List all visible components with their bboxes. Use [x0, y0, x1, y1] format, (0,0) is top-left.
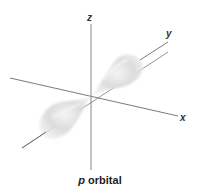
y-axis-label: y — [165, 28, 172, 39]
orbital-lobe-lower — [40, 96, 91, 139]
x-axis — [10, 78, 178, 116]
orbital-lobe-upper — [91, 54, 143, 96]
z-axis-label: z — [86, 12, 92, 23]
y-axis-front-segment — [22, 132, 46, 148]
y-axis-end-segment — [140, 42, 168, 60]
p-orbital-diagram: z y x — [0, 0, 200, 194]
x-axis-label: x — [179, 112, 186, 123]
orbital-caption-text: orbital — [85, 174, 122, 186]
orbital-caption: p orbital — [0, 174, 200, 186]
